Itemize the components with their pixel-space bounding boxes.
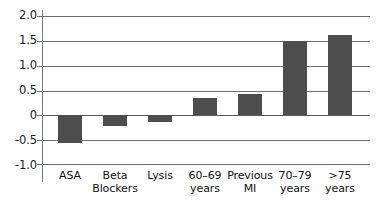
- tick-mark-neg-0-5: [37, 140, 48, 141]
- tick-mark-0: [37, 115, 48, 116]
- bar-chart: 2.0 1.5 1.0 0.5 0 -0.5 -1.0 ASA Beta: [0, 0, 381, 205]
- y-tick-label-2-0: 2.0: [1, 10, 37, 22]
- x-tick-label-60-69-years-line2: years: [190, 182, 220, 195]
- gridline-neg-1-0: [42, 164, 370, 165]
- x-tick-label-beta-blockers-line1: Beta: [103, 169, 128, 182]
- gridline-0-5: [42, 91, 370, 92]
- tick-mark-neg-1-0: [37, 164, 48, 165]
- y-tick-label-1-0: 1.0: [1, 60, 37, 72]
- tick-mark-2-0: [37, 16, 48, 17]
- x-tick-label-70-79-years-line2: years: [280, 182, 310, 195]
- bar-60-69-years: [193, 98, 217, 115]
- tick-mark-0-5: [37, 91, 48, 92]
- tick-mark-1-0: [37, 66, 48, 67]
- gridline-1-0: [42, 66, 370, 67]
- gridline-2-0: [42, 16, 370, 17]
- gridline-1-5: [42, 41, 370, 42]
- x-tick-label-asa-line1: ASA: [59, 169, 81, 182]
- y-tick-label-neg-1-0: -1.0: [1, 160, 37, 172]
- bar-over-75-years: [328, 35, 352, 115]
- y-tick-label-0: 0: [1, 110, 37, 122]
- bar-beta-blockers: [103, 115, 127, 126]
- top-edge-artifact: [58, 0, 188, 5]
- tick-mark-1-5: [37, 41, 48, 42]
- x-tick-label-60-69-years-line1: 60–69: [189, 169, 222, 182]
- x-tick-label-over-75-years: >75 years: [314, 170, 366, 195]
- x-tick-label-beta-blockers-line2: Blockers: [92, 182, 138, 195]
- bar-previous-mi: [238, 94, 262, 115]
- x-tick-label-over-75-years-line1: >75: [329, 169, 352, 182]
- gridline-neg-0-5: [42, 140, 370, 141]
- x-tick-label-lysis-line1: Lysis: [147, 169, 173, 182]
- bar-lysis: [148, 115, 172, 122]
- bar-70-79-years: [283, 41, 307, 115]
- x-tick-label-70-79-years-line1: 70–79: [279, 169, 312, 182]
- gridline-zero: [42, 115, 370, 116]
- y-tick-label-0-5: 0.5: [1, 85, 37, 97]
- y-tick-label-neg-0-5: -0.5: [1, 135, 37, 147]
- plot-area: [42, 16, 370, 165]
- x-tick-label-previous-mi-line1: Previous: [227, 169, 273, 182]
- x-tick-label-previous-mi-line2: MI: [244, 182, 257, 195]
- bar-asa: [58, 115, 82, 143]
- x-tick-label-over-75-years-line2: years: [325, 182, 355, 195]
- y-tick-label-1-5: 1.5: [1, 35, 37, 47]
